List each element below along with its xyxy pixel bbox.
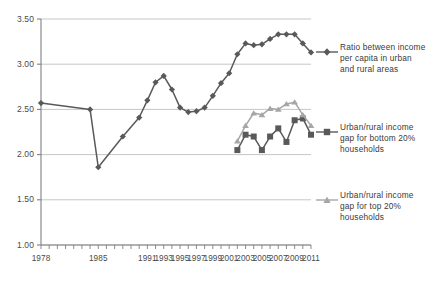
plot-area: 1.001.502.002.503.003.50 197819851991199… [0,0,320,281]
chart-container: 1.001.502.002.503.003.50 197819851991199… [0,0,441,281]
x-axis-tick-label: 1978 [26,254,56,263]
legend-item-top20: Urban/rural income gap for top 20% house… [316,190,441,224]
legend-item-bottom20: Urban/rural income gap for bottom 20% ho… [316,122,441,156]
y-axis-tick-label: 3.00 [4,59,34,69]
chart-series [38,31,314,170]
legend-triangle-marker-icon [316,192,338,204]
legend-item-label: Ratio between income per capita in urban… [340,42,425,76]
legend-item-label: Urban/rural income gap for bottom 20% ho… [340,122,415,156]
legend-square-marker-icon [316,124,338,136]
y-axis-tick-label: 1.00 [4,240,34,250]
legend-diamond-marker-icon [316,44,338,56]
y-axis-tick-label: 3.50 [4,14,34,24]
legend-item-ratio: Ratio between income per capita in urban… [316,42,441,76]
chart-legend: Ratio between income per capita in urban… [316,0,441,281]
chart-series [234,115,314,153]
y-axis-tick-label: 2.00 [4,149,34,159]
chart-plot-svg [0,0,320,281]
y-axis-tick-label: 2.50 [4,104,34,114]
legend-item-label: Urban/rural income gap for top 20% house… [340,190,414,224]
x-axis-tick-label: 1985 [83,254,113,263]
y-axis-tick-label: 1.50 [4,194,34,204]
